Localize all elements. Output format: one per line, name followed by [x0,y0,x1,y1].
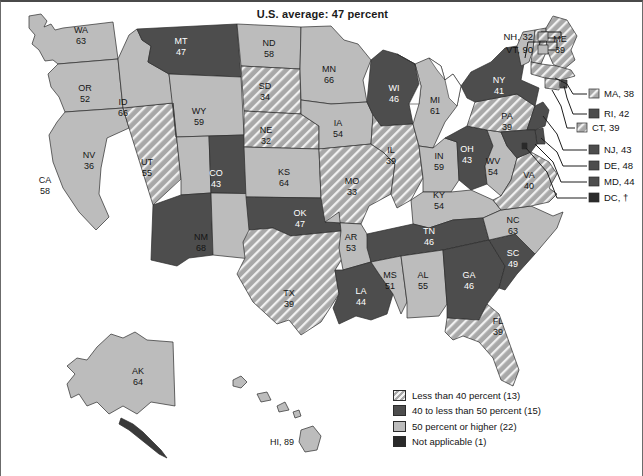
state-WY[interactable] [169,74,244,137]
legend-item-40-to-50: 40 to less than 50 percent (15) [393,404,633,419]
state-GA[interactable] [443,240,505,320]
state-AK-aleutians [119,418,167,458]
legend-swatch-light-icon [393,421,406,432]
state-HI-islands[interactable] [233,376,321,452]
state-CA[interactable] [49,108,129,230]
callout-swatch-MD [589,177,599,186]
callout-label-DC: DC, † [604,192,628,203]
state-AK[interactable] [67,332,175,414]
legend-label-40-to-50: 40 to less than 50 percent (15) [412,405,541,416]
state-OR[interactable] [48,59,123,112]
state-ME[interactable] [546,16,577,70]
map-legend: Less than 40 percent (13) 40 to less tha… [393,388,633,450]
callout-label-NJ: NJ, 43 [604,144,631,155]
callout-label-VT: VT, 90 [506,44,533,55]
callout-label-MA: MA, 38 [604,88,634,99]
state-NV[interactable] [123,103,181,205]
callout-swatch-MA [589,89,599,98]
legend-item-50-or-higher: 50 percent or higher (22) [393,419,633,434]
label-AZ-abbr: AZ [128,226,140,236]
callout-swatch-DE [589,161,599,170]
label-HI: HI, 89 [270,437,294,447]
callout-swatch-NH [538,32,548,41]
legend-swatch-mid-icon [393,405,406,416]
label-AZ-value: 47 [129,237,139,247]
state-ND[interactable] [237,24,301,69]
legend-label-not-applicable: Not applicable (1) [412,436,486,447]
callout-label-CT: CT, 39 [592,122,619,133]
label-CA-value: 58 [40,186,50,196]
legend-swatch-black-icon [393,436,406,447]
legend-item-less-than-40: Less than 40 percent (13) [393,388,633,403]
callout-swatch-NJ [589,145,599,154]
callout-swatch-DC [589,193,599,202]
legend-item-not-applicable: Not applicable (1) [393,435,633,450]
callout-label-NH: NH, 32 [503,31,533,42]
state-AZ[interactable] [151,193,213,266]
legend-label-less-than-40: Less than 40 percent (13) [412,390,520,401]
state-SD[interactable] [241,66,301,114]
state-TX[interactable] [237,228,345,335]
us-choropleth-map-figure: U.S. average: 47 percent [0,0,643,476]
callout-swatch-RI [589,109,599,118]
state-MN[interactable] [300,26,371,104]
callout-swatch-VT [538,45,548,54]
callout-label-RI: RI, 42 [604,108,629,119]
callout-swatch-CT [577,123,587,132]
state-WI[interactable] [367,50,419,126]
callout-label-DE: DE, 48 [604,160,633,171]
leader-RI [564,86,587,114]
state-WA[interactable] [29,14,118,64]
state-AL[interactable] [401,250,447,318]
callout-label-MD: MD, 44 [604,176,635,187]
state-MO[interactable] [319,144,395,224]
leader-MA [555,78,587,94]
label-CA-abbr: CA [39,175,52,185]
legend-label-50-or-higher: 50 percent or higher (22) [412,421,517,432]
state-KS[interactable] [244,147,321,198]
legend-swatch-hatch-icon [393,390,406,401]
